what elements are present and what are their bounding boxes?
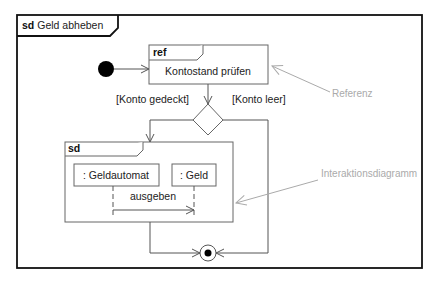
interaction-overview-diagram: sdGeld abheben ref Kontostand prüfen [Ko…	[0, 0, 439, 281]
guard-konto-gedeckt: [Konto gedeckt]	[116, 93, 189, 105]
annotation-interaktionsdiagramm-arrow	[236, 180, 318, 203]
flow-interaction-to-final	[150, 222, 200, 253]
flow-gedeckt-to-interaction	[150, 120, 193, 142]
annotation-referenz: Referenz	[332, 88, 373, 99]
interaction-frame: sd : Geldautomat : Geld ausgeben	[65, 142, 233, 222]
lifeline-geldautomat-label: : Geldautomat	[83, 169, 149, 181]
final-node-icon	[200, 245, 216, 261]
lifeline-geld-label: : Geld	[180, 169, 208, 181]
decision-node-icon	[193, 104, 223, 135]
ref-label: Kontostand prüfen	[165, 65, 251, 77]
annotation-interaktionsdiagramm: Interaktionsdiagramm	[321, 168, 417, 179]
message-label: ausgeben	[130, 190, 176, 202]
ref-node-kontostand-pruefen: ref Kontostand prüfen	[149, 45, 268, 84]
outer-frame-label: sdGeld abheben	[22, 19, 103, 31]
initial-node-icon	[98, 61, 114, 77]
ref-keyword: ref	[153, 46, 167, 58]
annotation-referenz-arrow	[272, 66, 330, 92]
interaction-keyword: sd	[68, 142, 80, 154]
guard-konto-leer: [Konto leer]	[232, 93, 286, 105]
